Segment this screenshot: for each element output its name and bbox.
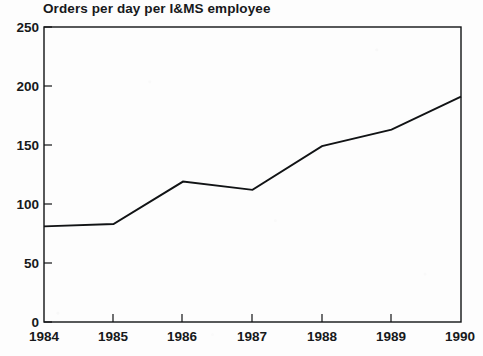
x-tick-label: 1985 bbox=[98, 329, 129, 344]
line-chart-plot: 0 50 100 150 200 250 1984 1985 1986 1987… bbox=[0, 0, 483, 356]
y-tick-label: 200 bbox=[16, 79, 39, 94]
x-tick-label: 1984 bbox=[29, 329, 60, 344]
y-tick-label: 150 bbox=[16, 138, 39, 153]
x-axis-tick-labels: 1984 1985 1986 1987 1988 1989 1990 bbox=[29, 329, 475, 344]
y-tick-label: 0 bbox=[31, 315, 39, 330]
x-tick-label: 1987 bbox=[237, 329, 267, 344]
x-tick-label: 1988 bbox=[307, 329, 338, 344]
y-tick-label: 50 bbox=[24, 256, 39, 271]
x-axis-ticks bbox=[113, 314, 391, 322]
y-tick-label: 250 bbox=[16, 20, 39, 35]
x-tick-label: 1989 bbox=[376, 329, 406, 344]
y-tick-label: 100 bbox=[16, 197, 39, 212]
data-series-line bbox=[44, 97, 461, 227]
chart-screenshot: Orders per day per I&MS employee 0 50 10… bbox=[0, 0, 483, 356]
y-axis-ticks bbox=[44, 27, 52, 322]
y-axis-tick-labels: 0 50 100 150 200 250 bbox=[16, 20, 39, 330]
x-tick-label: 1986 bbox=[167, 329, 198, 344]
x-tick-label: 1990 bbox=[445, 329, 475, 344]
plot-frame bbox=[44, 27, 461, 322]
